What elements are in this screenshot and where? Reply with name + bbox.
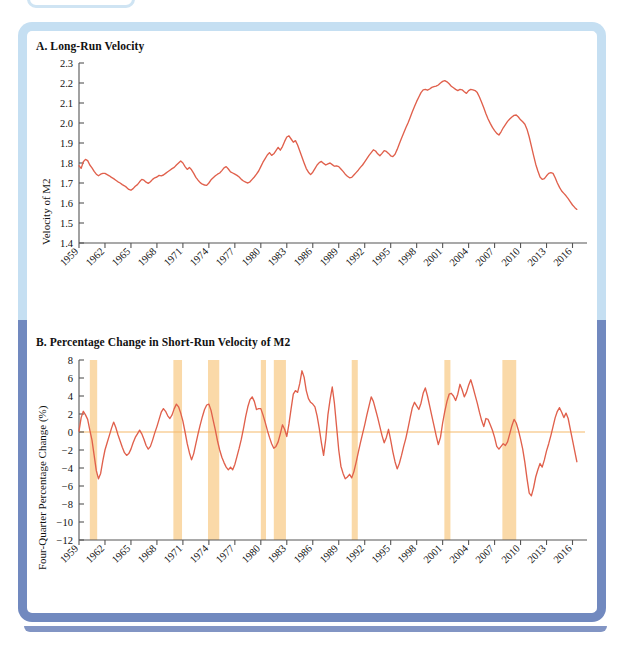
x-tick-label: 1986 <box>292 543 315 566</box>
x-tick-label: 2016 <box>551 543 574 566</box>
x-tick-label: 1980 <box>240 543 263 566</box>
y-tick-label: 2.3 <box>60 58 73 69</box>
recession-band <box>208 360 219 540</box>
x-tick-label: 1995 <box>369 543 392 566</box>
x-tick-label: 2013 <box>525 543 548 566</box>
y-tick-label: −6 <box>62 481 73 492</box>
x-tick-label: 1998 <box>395 543 418 566</box>
recession-band <box>274 360 286 540</box>
x-tick-label: 1998 <box>395 246 418 269</box>
x-tick-label: 1965 <box>110 543 133 566</box>
y-tick-label: 1.8 <box>60 158 73 169</box>
x-tick-label: 1968 <box>136 543 159 566</box>
x-tick-label: 1989 <box>318 543 341 566</box>
recession-band <box>261 360 266 540</box>
x-tick-label: 1959 <box>58 246 81 269</box>
x-tick-label: 1977 <box>214 246 237 269</box>
x-tick-label: 2001 <box>421 543 444 566</box>
x-tick-label: 2016 <box>551 246 574 269</box>
x-tick-label: 1992 <box>344 543 367 566</box>
y-tick-label: 8 <box>68 355 73 366</box>
y-tick-label: 2.1 <box>60 98 73 109</box>
data-series-line <box>79 81 577 210</box>
x-tick-label: 2007 <box>473 543 496 566</box>
recession-band <box>444 360 450 540</box>
figure-root: A. Long-Run Velocity Velocity of M2 1.41… <box>0 0 623 647</box>
y-tick-label: 1.7 <box>60 178 73 189</box>
x-tick-label: 2004 <box>447 245 470 268</box>
recession-band <box>173 360 182 540</box>
x-tick-label: 1992 <box>344 246 367 269</box>
x-tick-label: 1968 <box>136 246 159 269</box>
x-tick-label: 2004 <box>447 542 470 565</box>
x-tick-label: 1986 <box>292 246 315 269</box>
y-tick-label: 1.5 <box>60 218 73 229</box>
y-tick-label: −4 <box>62 463 74 474</box>
x-tick-label: 2001 <box>421 246 444 269</box>
decorative-top-tab <box>27 0 135 8</box>
x-tick-label: 1977 <box>214 543 237 566</box>
x-tick-label: 1983 <box>266 543 289 566</box>
x-tick-label: 2010 <box>499 543 522 566</box>
panel-a-title: A. Long-Run Velocity <box>36 40 144 52</box>
x-tick-label: 1983 <box>266 246 289 269</box>
x-tick-label: 1959 <box>58 543 81 566</box>
x-tick-label: 1971 <box>162 543 185 566</box>
x-tick-label: 2013 <box>525 246 548 269</box>
data-series-line <box>79 371 577 496</box>
x-tick-label: 2007 <box>473 246 496 269</box>
recession-band <box>502 360 516 540</box>
y-tick-label: 2 <box>68 409 73 420</box>
x-tick-label: 1962 <box>84 246 107 269</box>
x-tick-label: 2010 <box>499 246 522 269</box>
y-tick-label: 1.6 <box>60 198 73 209</box>
panel-b-plot: −12−10−8−6−4−202468195919621965196819711… <box>27 352 597 604</box>
x-tick-label: 1971 <box>162 246 185 269</box>
y-tick-label: 2.0 <box>60 118 73 129</box>
y-tick-label: −10 <box>57 517 73 528</box>
y-tick-label: 0 <box>68 427 73 438</box>
x-tick-label: 1962 <box>84 543 107 566</box>
y-tick-label: 6 <box>68 373 73 384</box>
x-tick-label: 1965 <box>110 246 133 269</box>
y-tick-label: 4 <box>68 391 74 402</box>
y-tick-label: −2 <box>62 445 73 456</box>
x-tick-label: 1989 <box>318 246 341 269</box>
panel-a-plot: 1.41.51.61.71.81.92.02.12.22.31959196219… <box>27 55 597 305</box>
x-tick-label: 1995 <box>369 246 392 269</box>
x-tick-label: 1974 <box>188 245 211 268</box>
x-tick-label: 1974 <box>188 542 211 565</box>
y-tick-label: 2.2 <box>60 78 73 89</box>
y-tick-label: −8 <box>62 499 73 510</box>
x-tick-label: 1980 <box>240 246 263 269</box>
recession-band <box>352 360 358 540</box>
y-tick-label: 1.9 <box>60 138 73 149</box>
figure-card-shadow <box>24 626 607 632</box>
panel-b-title: B. Percentage Change in Short-Run Veloci… <box>36 336 290 348</box>
